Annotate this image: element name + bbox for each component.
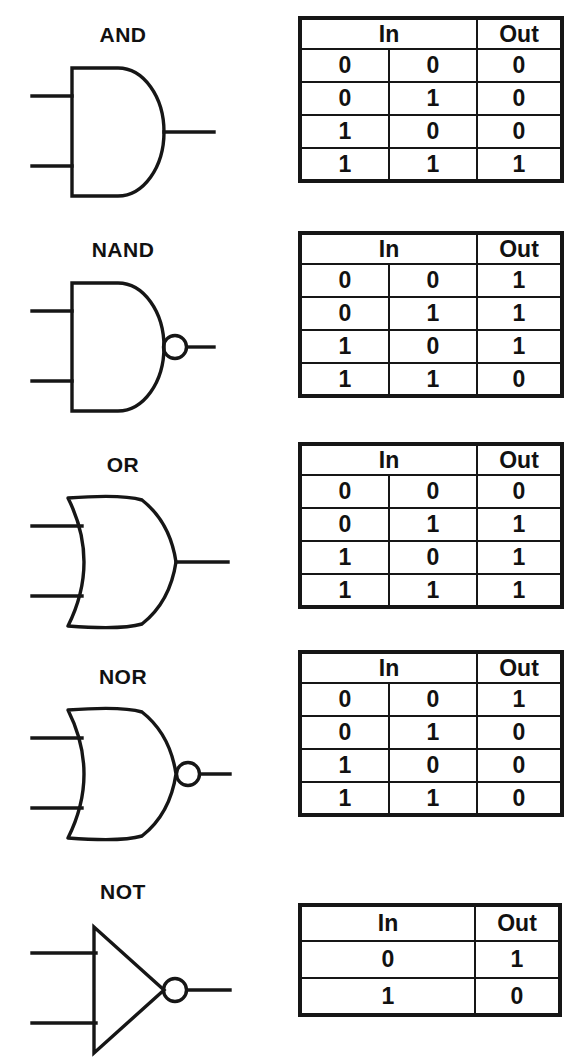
table-row: 0 1 0 (300, 716, 562, 749)
table-row: 1 0 0 (300, 749, 562, 782)
cell-in-a: 1 (300, 363, 389, 396)
cell-out: 0 (475, 978, 560, 1015)
cell-in-a: 0 (300, 264, 389, 297)
cell-in-b: 1 (389, 297, 477, 330)
column-header-in: In (300, 652, 477, 683)
gate-label-nand: NAND (18, 239, 228, 260)
truth-table-and: In Out 0 0 0 0 1 0 1 0 0 (298, 16, 564, 183)
cell-in-a: 1 (300, 115, 389, 148)
cell-in-a: 1 (300, 574, 389, 607)
table-row: 0 1 0 (300, 82, 562, 115)
column-header-out: Out (477, 233, 562, 264)
cell-out: 0 (477, 716, 562, 749)
table-row: 1 0 (300, 978, 560, 1015)
gate-block-nand: NAND In Out (0, 215, 580, 430)
table-row: 1 0 0 (300, 115, 562, 148)
cell-out: 0 (477, 82, 562, 115)
or-body (68, 708, 176, 839)
cell-in-a: 1 (300, 148, 389, 181)
cell-out: 1 (477, 574, 562, 607)
table-row: 1 1 0 (300, 363, 562, 396)
cell-in-b: 1 (389, 782, 477, 815)
cell-in-b: 0 (389, 330, 477, 363)
cell-out: 0 (477, 749, 562, 782)
cell-in-a: 1 (300, 978, 475, 1015)
gate-symbol-pane-not: NOT (0, 857, 290, 1063)
gate-symbol-pane-nand: NAND (0, 215, 290, 430)
gate-block-nor: NOR In Out (0, 642, 580, 857)
table-row: 1 0 1 (300, 541, 562, 574)
not-triangle-body (94, 927, 164, 1053)
cell-in-a: 1 (300, 749, 389, 782)
cell-in-b: 1 (389, 363, 477, 396)
table-header-row: In Out (300, 444, 562, 475)
cell-in-a: 1 (300, 541, 389, 574)
table-row: 0 1 (300, 941, 560, 978)
table-row: 0 1 1 (300, 508, 562, 541)
cell-in-b: 0 (389, 264, 477, 297)
cell-in-b: 0 (389, 49, 477, 82)
column-header-in: In (300, 18, 477, 49)
cell-in-a: 0 (300, 683, 389, 716)
column-header-in: In (300, 233, 477, 264)
cell-out: 0 (477, 115, 562, 148)
cell-out: 1 (477, 264, 562, 297)
cell-out: 1 (475, 941, 560, 978)
inversion-bubble-icon (177, 763, 200, 786)
table-header-row: In Out (300, 652, 562, 683)
table-header-row: In Out (300, 18, 562, 49)
not-gate-symbol (18, 907, 268, 1057)
gate-symbol-pane-and: AND (0, 0, 290, 215)
cell-out: 1 (477, 683, 562, 716)
and-gate-symbol (18, 50, 268, 200)
table-row: 0 0 1 (300, 264, 562, 297)
column-header-out: Out (477, 18, 562, 49)
table-header-row: In Out (300, 905, 560, 941)
cell-out: 0 (477, 363, 562, 396)
table-row: 1 1 0 (300, 782, 562, 815)
truth-table-pane-nand: In Out 0 0 1 0 1 1 1 0 1 (290, 215, 580, 430)
truth-table-not: In Out 0 1 1 0 (298, 903, 562, 1017)
cell-out: 0 (477, 49, 562, 82)
and-body (72, 283, 164, 411)
cell-in-a: 0 (300, 297, 389, 330)
cell-out: 0 (477, 782, 562, 815)
table-row: 1 0 1 (300, 330, 562, 363)
cell-in-a: 0 (300, 941, 475, 978)
cell-in-a: 0 (300, 716, 389, 749)
cell-in-b: 1 (389, 82, 477, 115)
cell-in-b: 0 (389, 541, 477, 574)
cell-out: 1 (477, 297, 562, 330)
cell-out: 1 (477, 330, 562, 363)
gate-block-and: AND In Out 0 (0, 0, 580, 215)
table-header-row: In Out (300, 233, 562, 264)
cell-in-b: 1 (389, 716, 477, 749)
truth-table-pane-not: In Out 0 1 1 0 (290, 857, 580, 1063)
cell-in-a: 1 (300, 330, 389, 363)
gate-label-and: AND (18, 24, 228, 45)
column-header-out: Out (475, 905, 560, 941)
cell-in-a: 1 (300, 782, 389, 815)
cell-out: 1 (477, 508, 562, 541)
cell-out: 1 (477, 541, 562, 574)
truth-table-pane-and: In Out 0 0 0 0 1 0 1 0 0 (290, 0, 580, 215)
cell-in-b: 0 (389, 115, 477, 148)
column-header-in: In (300, 444, 477, 475)
cell-in-a: 0 (300, 82, 389, 115)
or-body (68, 496, 176, 627)
cell-in-b: 1 (389, 508, 477, 541)
gate-symbol-pane-nor: NOR (0, 642, 290, 857)
and-body (72, 68, 164, 196)
cell-out: 1 (477, 148, 562, 181)
truth-table-nor: In Out 0 0 1 0 1 0 1 0 0 (298, 650, 564, 817)
table-row: 0 1 1 (300, 297, 562, 330)
table-row: 1 1 1 (300, 148, 562, 181)
column-header-out: Out (477, 444, 562, 475)
truth-table-or: In Out 0 0 0 0 1 1 1 0 1 (298, 442, 564, 609)
logic-gate-reference-sheet: AND In Out 0 (0, 0, 580, 1063)
column-header-in: In (300, 905, 475, 941)
inversion-bubble-icon (164, 336, 187, 359)
gate-label-nor: NOR (18, 666, 228, 687)
cell-in-b: 0 (389, 683, 477, 716)
table-row: 0 0 1 (300, 683, 562, 716)
